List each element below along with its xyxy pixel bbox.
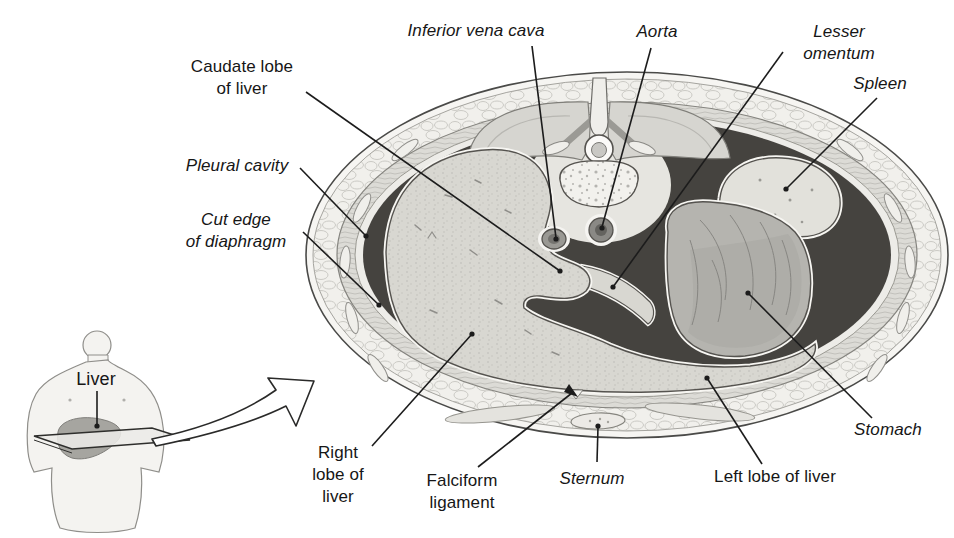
- stomach-shape: [667, 202, 811, 357]
- anatomy-illustration: [0, 0, 954, 538]
- label-falciform-ligament: Falciform ligament: [427, 470, 498, 514]
- spinous-process: [590, 78, 608, 136]
- label-cut-edge-of-diaphragm: Cut edge of diaphragm: [186, 209, 286, 253]
- torso-inset: [27, 331, 314, 533]
- label-right-lobe-of-liver: Right lobe of liver: [312, 442, 364, 507]
- label-liver-inset: Liver: [76, 368, 116, 391]
- figure-canvas: Liver Caudate lobe of liver Pleural cavi…: [0, 0, 954, 538]
- cross-section: [94, 46, 948, 467]
- spinal-cord: [592, 143, 607, 158]
- label-pleural-cavity: Pleural cavity: [186, 155, 289, 177]
- vertebral-body: [560, 161, 638, 207]
- label-caudate-lobe-of-liver: Caudate lobe of liver: [191, 56, 293, 100]
- label-left-lobe-of-liver: Left lobe of liver: [714, 466, 836, 488]
- section-arrow: [152, 378, 314, 446]
- label-spleen: Spleen: [853, 73, 907, 95]
- label-aorta: Aorta: [636, 21, 677, 43]
- label-sternum: Sternum: [560, 468, 625, 490]
- label-inferior-vena-cava: Inferior vena cava: [408, 20, 545, 42]
- label-lesser-omentum: Lesser omentum: [782, 21, 897, 65]
- label-stomach: Stomach: [854, 419, 922, 441]
